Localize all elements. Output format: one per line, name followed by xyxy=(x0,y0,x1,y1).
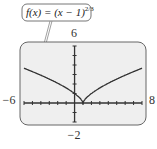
y-max-label: 6 xyxy=(71,26,77,40)
chart: f(x) = (x − 1)2/3 6 −2 −6 8 xyxy=(0,0,157,149)
x-max-label: 8 xyxy=(149,93,155,107)
x-min-label: −6 xyxy=(3,93,16,107)
chart-title: f(x) = (x − 1)2/3 xyxy=(26,5,94,19)
graph-screen xyxy=(20,42,146,125)
y-min-label: −2 xyxy=(68,128,81,142)
